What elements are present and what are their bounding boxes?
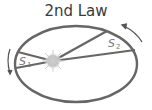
- s2-lower-radius: [53, 50, 135, 61]
- area-label-s2: S 2: [108, 37, 120, 51]
- sun-icon: [42, 50, 64, 72]
- orbit-diagram: S 1 S 2: [0, 0, 152, 110]
- svg-text:S: S: [108, 37, 115, 50]
- svg-text:S: S: [19, 55, 26, 68]
- svg-text:2: 2: [116, 43, 120, 51]
- direction-arrow-top-right-icon: [122, 24, 142, 42]
- direction-arrow-left-icon: [8, 49, 12, 74]
- svg-text:1: 1: [27, 61, 31, 69]
- area-label-s1: S 1: [19, 55, 31, 69]
